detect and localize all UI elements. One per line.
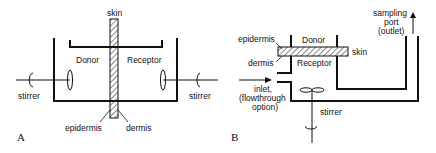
receptor-label: Receptor (297, 58, 332, 68)
panel-b-franz-cell: sampling port (outlet) epidermis Donor s… (231, 8, 418, 143)
stirrer-label: stirrer (320, 107, 342, 117)
stirrer-left-label: stirrer (18, 91, 40, 101)
skin-membrane (110, 19, 118, 118)
stirrer-blade-right-icon (312, 88, 324, 92)
dermis-label: dermis (248, 58, 274, 68)
epidermis-label: epidermis (65, 123, 102, 133)
sampling-port-label-3: (outlet) (378, 26, 405, 36)
dermis-leader-line (118, 110, 128, 122)
skin-membrane (278, 47, 348, 56)
receptor-outer-wall (277, 36, 418, 101)
panel-a-side-by-side-cell: skin Donor Receptor stirrer stirrer epid… (16, 8, 218, 143)
skin-label: skin (107, 8, 122, 18)
stirrer-right-label: stirrer (189, 91, 211, 101)
rotation-arrow-icon (306, 126, 317, 129)
dermis-leader-line (276, 56, 282, 62)
outlet-arrow-icon (410, 12, 416, 18)
inlet-label-3: option) (252, 102, 278, 112)
epidermis-leader-line (100, 110, 110, 122)
donor-label: Donor (302, 35, 325, 45)
inlet-arrow-icon (265, 77, 272, 83)
panel-b-label: B (231, 131, 238, 143)
panel-a-label: A (17, 131, 25, 143)
donor-label: Donor (76, 55, 99, 65)
receptor-inner-wall (337, 36, 406, 89)
receptor-label: Receptor (127, 55, 162, 65)
epidermis-label: epidermis (238, 34, 275, 44)
skin-label: skin (352, 47, 367, 57)
stirrer-blade-left-icon (300, 88, 312, 92)
diffusion-cell-diagram: skin Donor Receptor stirrer stirrer epid… (0, 0, 436, 153)
dermis-label: dermis (126, 123, 152, 133)
